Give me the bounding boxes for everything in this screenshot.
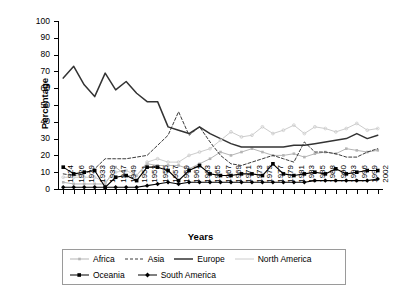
legend-swatch-icon <box>69 254 90 264</box>
legend-item-south-america[interactable]: South America <box>137 270 218 280</box>
x-axis-tick-label: 1983 <box>308 165 316 195</box>
x-axis-tick-label: 1967 <box>225 165 233 195</box>
y-axis-tick-label: 0 <box>24 185 50 194</box>
x-axis-tick-label: 1965 <box>214 165 222 195</box>
legend-item-north-america[interactable]: North America <box>234 254 314 264</box>
x-axis-tick-label: 1959 <box>183 165 191 195</box>
x-axis-tick-label: 1999 <box>371 165 379 195</box>
x-axis-tick-label: 1955 <box>162 165 170 195</box>
x-axis-tick-label: 1985 <box>319 165 327 195</box>
x-axis-tick-label: 1953 <box>151 165 159 195</box>
legend-item-asia[interactable]: Asia <box>124 254 167 264</box>
x-axis-tick-label: 1996 <box>361 165 369 195</box>
x-axis-tick-label: 1969 <box>235 165 243 195</box>
legend-label: North America <box>258 254 314 264</box>
legend-label: Asia <box>148 254 167 264</box>
x-axis-tick-label: 1990 <box>340 165 348 195</box>
legend-swatch-icon <box>173 254 194 264</box>
legend-swatch-icon <box>69 270 90 280</box>
x-axis-tick <box>63 190 64 194</box>
x-axis-tick-label: 1988 <box>329 165 337 195</box>
legend-row: AfricaAsiaEuropeNorth America <box>63 251 351 267</box>
legend-swatch-icon <box>124 254 145 264</box>
x-axis-tick-label: 1924 <box>67 165 75 195</box>
y-axis-tick-label: 90 <box>24 33 50 42</box>
legend-label: Africa <box>93 254 117 264</box>
legend-item-europe[interactable]: Europe <box>173 254 226 264</box>
plot-area <box>58 21 383 189</box>
chart-legend: AfricaAsiaEuropeNorth America OceaniaSou… <box>62 249 346 285</box>
y-axis-tick-label: 80 <box>24 50 50 59</box>
y-axis-tick-label: 70 <box>24 67 50 76</box>
legend-item-africa[interactable]: Africa <box>69 254 117 264</box>
series-svg <box>58 21 383 189</box>
legend-label: Oceania <box>93 270 127 280</box>
x-axis-tick-label: 1981 <box>298 165 306 195</box>
legend-item-oceania[interactable]: Oceania <box>69 270 127 280</box>
y-axis-tick-label: 50 <box>24 101 50 110</box>
x-axis-title: Years <box>0 231 401 242</box>
legend-label: Europe <box>197 254 226 264</box>
line-chart: Percentage 0102030405060708090100 192419… <box>0 0 401 297</box>
x-axis-tick-label: 1929 <box>88 165 96 195</box>
x-axis-tick-label: 1961 <box>193 165 201 195</box>
x-axis-tick-label: 1926 <box>78 165 86 195</box>
x-axis-tick-label: 1963 <box>204 165 212 195</box>
x-axis-tick-label: 1933 <box>99 165 107 195</box>
x-axis-tick-label: 1939 <box>109 165 117 195</box>
y-axis-tick-label: 10 <box>24 168 50 177</box>
x-axis-tick-label: 1949 <box>130 165 138 195</box>
x-axis-tick-label: 1993 <box>350 165 358 195</box>
x-axis-tick-label: 2002 <box>382 165 390 195</box>
x-axis-tick-label: 1971 <box>245 165 253 195</box>
x-axis-tick-label: 1951 <box>141 165 149 195</box>
x-axis-tick-label: 1947 <box>120 165 128 195</box>
x-axis-tick-label: 1979 <box>287 165 295 195</box>
y-axis-tick-label: 60 <box>24 84 50 93</box>
y-axis-tick-label: 30 <box>24 134 50 143</box>
legend-swatch-icon <box>137 270 158 280</box>
legend-label: South America <box>161 270 218 280</box>
series-europe <box>63 66 378 147</box>
y-axis-tick-label: 100 <box>24 17 50 26</box>
legend-row: OceaniaSouth America <box>63 267 351 283</box>
y-axis-tick-label: 40 <box>24 117 50 126</box>
y-axis-tick-label: 20 <box>24 151 50 160</box>
x-axis-tick-label: 1977 <box>277 165 285 195</box>
x-axis-tick-label: 1975 <box>266 165 274 195</box>
x-axis-tick-label: 1973 <box>256 165 264 195</box>
x-axis-tick-label: 1957 <box>172 165 180 195</box>
legend-swatch-icon <box>234 254 255 264</box>
